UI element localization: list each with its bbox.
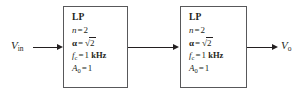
stage-2-spec-order: n=2: [189, 24, 223, 37]
output-port-subscript: o: [288, 44, 292, 53]
stage-2-title: LP: [189, 12, 223, 23]
stage-1-content: LP n=2 α=√2 fc=1 kHz A0=1: [72, 12, 106, 74]
interstage-wire: [128, 47, 174, 48]
spec-value-n: 2: [201, 25, 206, 35]
spec-value-n: 2: [84, 25, 89, 35]
filter-block-stage-2: LP n=2 α=√2 fc=1 kHz A0=1: [180, 6, 247, 88]
spec-symbol-n: n: [72, 25, 77, 35]
spec-equals: =: [194, 25, 201, 35]
interstage-arrowhead-icon: [173, 44, 179, 50]
spec-value-alpha: 2: [89, 37, 96, 48]
stage-2-content: LP n=2 α=√2 fc=1 kHz A0=1: [189, 12, 223, 74]
spec-subscript-c: c: [75, 54, 78, 61]
input-port-label: Vin: [11, 39, 24, 51]
spec-symbol-n: n: [189, 25, 194, 35]
spec-equals: =: [77, 38, 84, 48]
spec-equals: =: [77, 25, 84, 35]
spec-subscript-0: 0: [78, 67, 81, 74]
stage-1-spec-order: n=2: [72, 24, 106, 37]
stage-2-spec-gain: A0=1: [189, 62, 223, 75]
filter-block-stage-1: LP n=2 α=√2 fc=1 kHz A0=1: [63, 6, 128, 88]
stage-1-spec-cutoff: fc=1 kHz: [72, 49, 106, 62]
output-wire: [247, 47, 273, 48]
spec-equals: =: [198, 63, 205, 73]
stage-1-spec-gain: A0=1: [72, 62, 106, 75]
spec-equals: =: [194, 38, 201, 48]
spec-value-fc: 1: [84, 50, 89, 60]
spec-unit-fc: kHz: [91, 50, 106, 60]
stage-1-spec-alpha: α=√2: [72, 37, 106, 50]
spec-value-A0: 1: [205, 63, 210, 73]
spec-symbol-A: A: [189, 63, 195, 73]
sqrt-icon: √2: [201, 37, 212, 50]
stage-2-spec-cutoff: fc=1 kHz: [189, 49, 223, 62]
output-port-label: Vo: [281, 39, 291, 51]
spec-subscript-0: 0: [195, 67, 198, 74]
spec-unit-fc: kHz: [208, 50, 223, 60]
spec-value-fc: 1: [201, 50, 206, 60]
stage-2-spec-alpha: α=√2: [189, 37, 223, 50]
stage-1-title: LP: [72, 12, 106, 23]
input-port-symbol: V: [11, 39, 18, 51]
spec-equals: =: [81, 63, 88, 73]
output-port-symbol: V: [281, 39, 288, 51]
sqrt-icon: √2: [84, 37, 95, 50]
input-port-subscript: in: [18, 44, 24, 53]
filter-cascade-diagram: Vin LP n=2 α=√2 fc=1 kHz A0=1 LP: [0, 0, 302, 97]
input-wire: [33, 47, 59, 48]
spec-subscript-c: c: [192, 54, 195, 61]
spec-value-alpha: 2: [206, 37, 213, 48]
spec-symbol-A: A: [72, 63, 78, 73]
spec-value-A0: 1: [88, 63, 93, 73]
output-arrowhead-icon: [272, 44, 278, 50]
